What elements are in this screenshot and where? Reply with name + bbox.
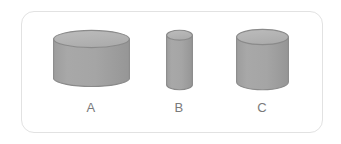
cylinder-b <box>166 30 193 90</box>
cylinder-label-a: A <box>71 101 111 115</box>
cylinder-label-b: B <box>159 101 199 115</box>
cylinder-c-shape <box>236 29 289 90</box>
cylinder-label-c: C <box>242 101 282 115</box>
cylinder-a <box>53 30 130 88</box>
cylinder-c <box>236 29 289 90</box>
cylinder-a-shape <box>53 30 130 88</box>
cylinder-b-shape <box>166 30 193 90</box>
figure-canvas: A B C <box>0 0 341 144</box>
cylinder-diagram: A B C <box>0 0 341 144</box>
